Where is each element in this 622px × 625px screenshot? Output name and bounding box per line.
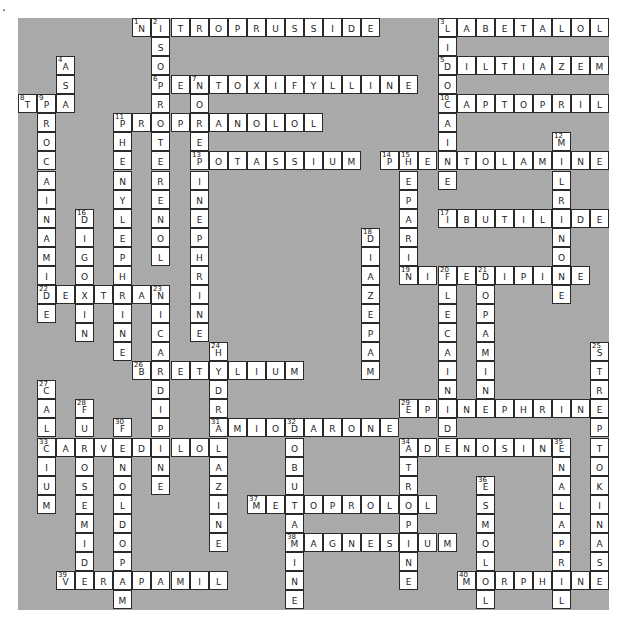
crossword-cell[interactable]: M — [590, 56, 609, 75]
crossword-cell[interactable]: O — [476, 151, 495, 170]
crossword-cell[interactable]: L — [495, 151, 514, 170]
crossword-cell[interactable]: B — [476, 18, 495, 37]
crossword-cell[interactable]: E — [399, 75, 418, 94]
crossword-cell[interactable]: O — [190, 94, 209, 113]
crossword-cell[interactable]: I — [190, 571, 209, 590]
crossword-cell[interactable]: N — [380, 75, 399, 94]
crossword-cell[interactable]: A — [304, 418, 323, 437]
crossword-cell[interactable]: I — [151, 304, 170, 323]
crossword-cell[interactable]: O — [285, 113, 304, 132]
crossword-cell[interactable]: 13P — [190, 151, 209, 170]
crossword-cell[interactable]: D — [75, 552, 94, 571]
crossword-cell[interactable]: T — [590, 438, 609, 457]
crossword-cell[interactable]: I — [361, 75, 380, 94]
crossword-cell[interactable]: A — [209, 457, 228, 476]
crossword-cell[interactable]: L — [304, 113, 323, 132]
crossword-cell[interactable]: A — [37, 171, 56, 190]
crossword-cell[interactable]: P — [399, 514, 418, 533]
crossword-cell[interactable]: P — [514, 571, 533, 590]
crossword-cell[interactable]: 24H — [209, 342, 228, 361]
crossword-cell[interactable]: 15H — [399, 151, 418, 170]
crossword-cell[interactable]: S — [151, 37, 170, 56]
crossword-cell[interactable]: 8T — [18, 94, 37, 113]
crossword-cell[interactable]: A — [151, 342, 170, 361]
crossword-cell[interactable]: R — [190, 113, 209, 132]
crossword-cell[interactable]: I — [533, 266, 552, 285]
crossword-cell[interactable]: E — [285, 590, 304, 609]
crossword-cell[interactable]: I — [190, 171, 209, 190]
crossword-cell[interactable]: I — [514, 56, 533, 75]
crossword-cell[interactable]: R — [533, 399, 552, 418]
crossword-cell[interactable]: D — [342, 18, 361, 37]
crossword-cell[interactable]: E — [399, 571, 418, 590]
crossword-cell[interactable]: 25S — [590, 342, 609, 361]
crossword-cell[interactable]: N — [438, 380, 457, 399]
crossword-cell[interactable]: 12M — [552, 132, 571, 151]
crossword-cell[interactable]: C — [151, 323, 170, 342]
crossword-cell[interactable]: E — [56, 285, 75, 304]
crossword-cell[interactable]: E — [361, 533, 380, 552]
crossword-cell[interactable]: C — [438, 323, 457, 342]
crossword-cell[interactable]: I — [113, 304, 132, 323]
crossword-cell[interactable]: I — [323, 18, 342, 37]
crossword-cell[interactable]: 19N — [399, 266, 418, 285]
crossword-cell[interactable]: L — [590, 94, 609, 113]
crossword-cell[interactable]: M — [37, 247, 56, 266]
crossword-cell[interactable]: I — [552, 209, 571, 228]
crossword-cell[interactable]: O — [190, 438, 209, 457]
crossword-cell[interactable]: Z — [361, 285, 380, 304]
crossword-cell[interactable]: M — [476, 514, 495, 533]
crossword-cell[interactable]: F — [285, 75, 304, 94]
crossword-cell[interactable]: I — [247, 361, 266, 380]
crossword-cell[interactable]: A — [533, 56, 552, 75]
crossword-cell[interactable]: N — [285, 571, 304, 590]
crossword-cell[interactable]: R — [342, 495, 361, 514]
crossword-cell[interactable]: E — [571, 56, 590, 75]
crossword-cell[interactable]: T — [94, 285, 113, 304]
crossword-cell[interactable]: L — [533, 209, 552, 228]
crossword-cell[interactable]: U — [418, 533, 437, 552]
crossword-cell[interactable]: O — [285, 438, 304, 457]
crossword-cell[interactable]: N — [228, 113, 247, 132]
crossword-cell[interactable]: Z — [209, 476, 228, 495]
crossword-cell[interactable]: T — [285, 495, 304, 514]
crossword-cell[interactable]: A — [590, 533, 609, 552]
crossword-cell[interactable]: U — [37, 476, 56, 495]
crossword-cell[interactable]: A — [361, 266, 380, 285]
crossword-cell[interactable]: R — [552, 94, 571, 113]
crossword-cell[interactable]: 16D — [75, 209, 94, 228]
crossword-cell[interactable]: O — [438, 75, 457, 94]
crossword-cell[interactable]: A — [37, 228, 56, 247]
crossword-cell[interactable]: A — [151, 571, 170, 590]
crossword-cell[interactable]: E — [438, 438, 457, 457]
crossword-cell[interactable]: O — [266, 418, 285, 437]
crossword-cell[interactable]: N — [457, 438, 476, 457]
crossword-cell[interactable]: O — [590, 457, 609, 476]
crossword-cell[interactable]: E — [361, 18, 380, 37]
crossword-cell[interactable]: Y — [209, 361, 228, 380]
crossword-cell[interactable]: S — [476, 495, 495, 514]
crossword-cell[interactable]: N — [571, 151, 590, 170]
crossword-cell[interactable]: I — [37, 457, 56, 476]
crossword-cell[interactable]: I — [151, 438, 170, 457]
crossword-cell[interactable]: R — [37, 113, 56, 132]
crossword-cell[interactable]: I — [590, 495, 609, 514]
crossword-cell[interactable]: E — [380, 418, 399, 437]
crossword-cell[interactable]: P — [132, 571, 151, 590]
crossword-cell[interactable]: P — [171, 113, 190, 132]
crossword-cell[interactable]: I — [361, 247, 380, 266]
crossword-cell[interactable]: U — [285, 476, 304, 495]
crossword-cell[interactable]: R — [495, 571, 514, 590]
crossword-cell[interactable]: 26B — [132, 361, 151, 380]
crossword-cell[interactable]: P — [228, 18, 247, 37]
crossword-cell[interactable]: I — [247, 418, 266, 437]
crossword-cell[interactable]: E — [438, 304, 457, 323]
crossword-cell[interactable]: G — [75, 247, 94, 266]
crossword-cell[interactable]: 32D — [285, 418, 304, 437]
crossword-cell[interactable]: I — [514, 438, 533, 457]
crossword-cell[interactable]: 23N — [151, 285, 170, 304]
crossword-cell[interactable]: E — [151, 476, 170, 495]
crossword-cell[interactable]: O — [75, 457, 94, 476]
crossword-cell[interactable]: I — [399, 533, 418, 552]
crossword-cell[interactable]: O — [342, 418, 361, 437]
